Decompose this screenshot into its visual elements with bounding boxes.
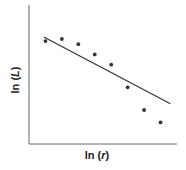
data-point — [126, 85, 130, 89]
data-point — [109, 63, 113, 67]
data-points — [44, 37, 163, 124]
trend-line — [44, 37, 171, 104]
x-axis-label: ln (r) — [85, 149, 110, 161]
data-point — [60, 37, 64, 41]
data-point — [93, 53, 97, 57]
data-point — [142, 108, 146, 112]
data-point — [159, 120, 163, 124]
scatter-chart: ln (r) ln (L) — [0, 0, 186, 170]
data-point — [44, 39, 48, 43]
data-point — [76, 42, 80, 46]
y-axis-label: ln (L) — [9, 66, 21, 93]
